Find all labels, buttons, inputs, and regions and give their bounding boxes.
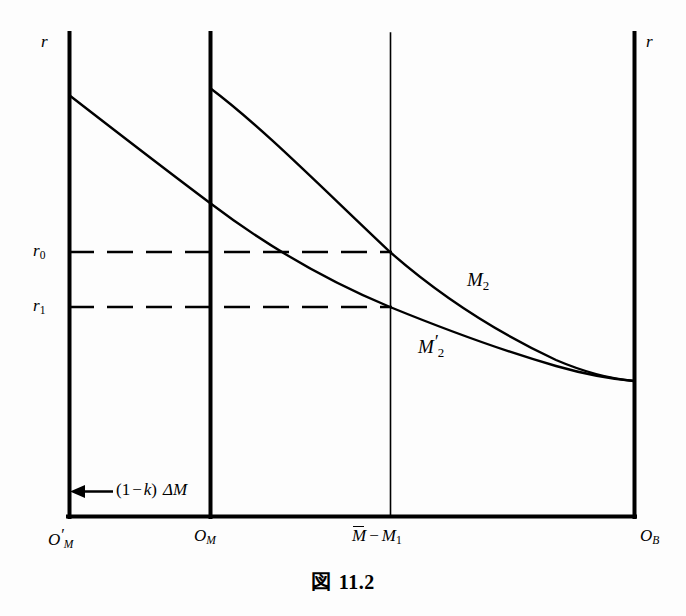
- right-axis-rate-label: r: [646, 33, 653, 50]
- curve-label-M2: M2: [467, 270, 489, 293]
- mbar-letter: M: [352, 527, 366, 544]
- annotation-delta: Δ: [157, 480, 173, 499]
- origin-middle-subscript: M: [206, 534, 216, 547]
- m1-subscript: 1: [396, 534, 402, 547]
- origin-left-letter: O: [48, 530, 60, 549]
- curve-M2-prime: [69, 95, 634, 381]
- rate-letter-r0: r: [33, 241, 40, 260]
- curve-label-M2-prime: M′2: [418, 333, 444, 360]
- rate-label-r0: r0: [33, 242, 45, 262]
- curve-subscript-M2-prime: 2: [438, 345, 444, 360]
- curve-letter-M2-prime: M: [418, 336, 434, 357]
- origin-left-subscript: M: [64, 538, 74, 551]
- curve-letter-M2: M: [467, 269, 483, 290]
- mbar-minus-sign: −: [366, 526, 382, 545]
- caption-number: 11.2: [332, 571, 375, 593]
- annotation-minus: −: [130, 480, 144, 499]
- annotation-money: M: [173, 480, 187, 499]
- m1-letter: M: [382, 526, 396, 545]
- axis-tick-label-mbar-minus-m1: M−M1: [352, 527, 402, 547]
- origin-label-left: O′M: [48, 527, 73, 551]
- origin-label-right: OB: [640, 527, 659, 547]
- rate-subscript-r1: 1: [40, 304, 46, 317]
- caption-symbol: 図: [311, 571, 332, 593]
- leftward-arrow-icon: [70, 485, 113, 498]
- left-axis-rate-label: r: [41, 33, 48, 50]
- origin-right-subscript: B: [652, 534, 659, 547]
- figure-container: r r r0 r1 M2 M′2 (1−k)ΔM O′M OM M−M1 OB …: [0, 0, 686, 616]
- rate-subscript-r0: 0: [40, 249, 46, 262]
- annotation-open-paren: (1: [116, 480, 130, 499]
- delta-money-annotation: (1−k)ΔM: [116, 480, 187, 500]
- curve-subscript-M2: 2: [483, 278, 489, 293]
- origin-label-middle: OM: [194, 527, 216, 547]
- rate-letter-r1: r: [33, 296, 40, 315]
- origin-right-letter: O: [640, 526, 652, 545]
- origin-middle-letter: O: [194, 526, 206, 545]
- rate-label-r1: r1: [33, 297, 45, 317]
- figure-caption: 図11.2: [0, 566, 686, 595]
- economics-diagram-svg: [0, 0, 686, 616]
